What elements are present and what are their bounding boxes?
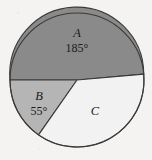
pie-chart-figure: A 185° B 55° C	[0, 0, 152, 160]
slice-a-value: 185°	[66, 41, 89, 55]
pie-chart-svg: A 185° B 55° C	[0, 0, 152, 160]
slice-b-value: 55°	[31, 104, 48, 118]
slice-b-label: B	[35, 89, 43, 103]
slice-a-label: A	[72, 26, 81, 40]
slice-c-label: C	[91, 104, 100, 118]
